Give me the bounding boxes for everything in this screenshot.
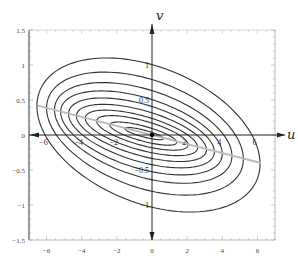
v-inner-tick-label: −1	[140, 201, 149, 210]
u-inner-tick-label: 2	[182, 138, 186, 147]
u-arrow-right-icon	[277, 133, 285, 138]
y-tick-label: 0	[22, 132, 26, 140]
principal-line	[38, 106, 261, 163]
u-inner-tick-label: −4	[74, 138, 83, 147]
y-tick-label: −1	[18, 202, 26, 210]
x-tick-label: 2	[185, 247, 189, 255]
v-inner-tick-label: −0.5	[134, 166, 149, 175]
y-tick-label: 1.5	[16, 27, 25, 35]
y-tick-label: −1.5	[12, 237, 25, 245]
x-tick-label: −6	[43, 247, 51, 255]
u-arrow-left-icon	[30, 133, 39, 138]
origin-point	[150, 133, 154, 137]
u-inner-tick-label: −2	[110, 138, 119, 147]
contour-chart: −6−4−20246−1.5−1−0.500.511.5 uv−6−4−2246…	[0, 0, 298, 265]
x-tick-label: −2	[113, 247, 121, 255]
x-tick-label: 6	[256, 247, 260, 255]
x-tick-label: 4	[221, 247, 225, 255]
v-inner-tick-label: 1	[145, 61, 149, 70]
u-inner-tick-label: 6	[252, 138, 256, 147]
y-tick-label: 1	[22, 62, 26, 70]
y-tick-label: 0.5	[16, 97, 25, 105]
v-inner-tick-label: 0.5	[139, 96, 149, 105]
plot-frame: −6−4−20246−1.5−1−0.500.511.5	[12, 27, 275, 256]
principal-line	[38, 106, 261, 163]
v-axis-label: v	[156, 8, 164, 23]
u-inner-tick-label: 4	[217, 138, 221, 147]
x-tick-label: 0	[150, 247, 154, 255]
u-inner-tick-label: −6	[39, 138, 48, 147]
u-axis-label: u	[287, 127, 295, 142]
v-arrow-up-icon	[150, 24, 155, 34]
y-tick-label: −0.5	[12, 167, 25, 175]
x-tick-label: −4	[78, 247, 86, 255]
